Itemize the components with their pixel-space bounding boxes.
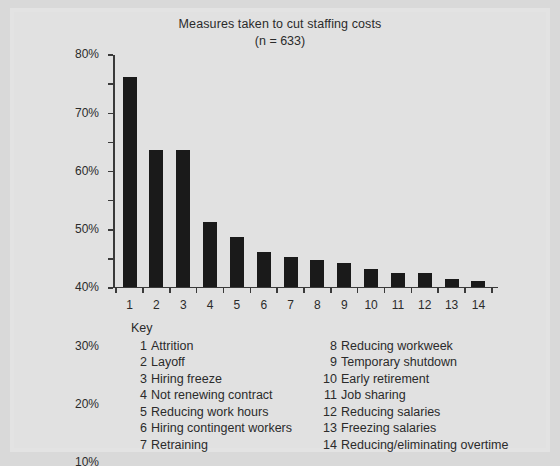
bar (203, 222, 217, 286)
key-item: 5Reducing work hours (131, 404, 326, 421)
chart-title: Measures taken to cut staffing costs (0, 16, 560, 33)
x-axis-tick (330, 288, 332, 293)
key-item-number: 4 (131, 387, 147, 404)
y-axis-tick-label: 30% (75, 339, 99, 353)
y-axis-tick-label: 20% (75, 397, 99, 411)
key-item-number: 6 (131, 420, 147, 437)
key-item-label: Hiring contingent workers (151, 421, 292, 435)
x-axis-tick (169, 288, 171, 293)
x-axis-tick (276, 288, 278, 293)
bar (149, 150, 163, 287)
key-item-number: 8 (321, 338, 337, 355)
key-item: 14Reducing/eliminating overtime (321, 437, 536, 454)
bar (284, 257, 298, 286)
x-axis-line (113, 287, 498, 289)
key-item-label: Temporary shutdown (341, 355, 457, 369)
x-axis-tick-label: 7 (287, 298, 294, 312)
key-item-number: 5 (131, 404, 147, 421)
key-item: 4Not renewing contract (131, 387, 326, 404)
x-axis-tick-label: 8 (314, 298, 321, 312)
bar (337, 263, 351, 286)
key-item: 9Temporary shutdown (321, 354, 536, 371)
key-item-label: Job sharing (341, 388, 406, 402)
key-item-label: Reducing workweek (341, 339, 453, 353)
key-item-label: Reducing salaries (341, 405, 440, 419)
y-axis-tick: 50% (108, 142, 113, 144)
x-axis-tick (491, 288, 493, 293)
y-axis-tick-label: 40% (75, 280, 99, 294)
bar (257, 252, 271, 287)
y-axis-tick-label: 50% (75, 222, 99, 236)
x-axis-tick (142, 288, 144, 293)
key-item-number: 14 (321, 437, 337, 454)
key-item-number: 9 (321, 354, 337, 371)
x-axis-tick-label: 10 (364, 298, 377, 312)
x-axis-tick-label: 3 (180, 298, 187, 312)
key-item-label: Layoff (151, 355, 185, 369)
bar (310, 260, 324, 286)
x-axis-tick (384, 288, 386, 293)
key-item-label: Freezing salaries (341, 421, 436, 435)
key-item: 10Early retirement (321, 371, 536, 388)
x-axis-tick-label: 11 (392, 298, 404, 312)
bar (123, 77, 137, 287)
x-axis-tick-label: 14 (472, 298, 485, 312)
key-item-number: 10 (321, 371, 337, 388)
bar (230, 237, 244, 287)
y-axis-tick: 20% (108, 229, 113, 231)
x-axis-tick-label: 9 (341, 298, 348, 312)
bar (418, 273, 432, 286)
y-axis-tick: 0% (108, 287, 113, 289)
x-axis-tick (464, 288, 466, 293)
key-item-label: Hiring freeze (151, 372, 222, 386)
x-axis-tick-label: 6 (260, 298, 267, 312)
x-axis-tick (411, 288, 413, 293)
x-axis-tick-label: 4 (207, 298, 214, 312)
x-axis-tick-label: 5 (234, 298, 241, 312)
plot-area: 0%10%20%30%40%50%60%70%80% 1234567891011… (113, 55, 498, 288)
x-axis-tick (250, 288, 252, 293)
y-axis-tick-label: 10% (75, 455, 99, 466)
key-item: 6Hiring contingent workers (131, 420, 326, 437)
key-item: 2Layoff (131, 354, 326, 371)
y-axis-tick: 60% (108, 113, 113, 115)
y-axis-line (113, 55, 115, 288)
key-item-number: 3 (131, 371, 147, 388)
x-axis-tick (437, 288, 439, 293)
x-axis-tick-label: 2 (153, 298, 160, 312)
y-axis-tick-label: 80% (75, 47, 99, 61)
key-item-label: Not renewing contract (151, 388, 273, 402)
key-item: 12Reducing salaries (321, 404, 536, 421)
x-axis-tick-label: 13 (445, 298, 458, 312)
x-axis-tick (223, 288, 225, 293)
chart-page: Measures taken to cut staffing costs (n … (0, 0, 560, 466)
key-item-number: 12 (321, 404, 337, 421)
key-column-right: 8Reducing workweek9Temporary shutdown10E… (321, 338, 536, 454)
bar (445, 279, 459, 286)
key-item: 3Hiring freeze (131, 371, 326, 388)
bar (176, 150, 190, 287)
key-item-number: 13 (321, 420, 337, 437)
key-item-label: Early retirement (341, 372, 429, 386)
x-axis-tick-label: 12 (418, 298, 431, 312)
key-column-left: 1Attrition2Layoff3Hiring freeze4Not rene… (131, 338, 326, 454)
y-axis-tick: 30% (108, 200, 113, 202)
chart-key: Key 1Attrition2Layoff3Hiring freeze4Not … (131, 320, 531, 338)
bar (471, 281, 485, 287)
key-item: 13Freezing salaries (321, 420, 536, 437)
title-block: Measures taken to cut staffing costs (n … (0, 16, 560, 50)
key-item-number: 1 (131, 338, 147, 355)
y-axis-tick: 70% (108, 83, 113, 85)
x-axis-tick (303, 288, 305, 293)
key-heading: Key (131, 320, 531, 337)
key-item-label: Retraining (151, 438, 208, 452)
x-axis-tick-label: 1 (126, 298, 133, 312)
y-axis-tick-label: 60% (75, 164, 99, 178)
x-axis-tick (196, 288, 198, 293)
y-axis-tick-label: 70% (75, 106, 99, 120)
x-axis-tick (357, 288, 359, 293)
key-item: 7Retraining (131, 437, 326, 454)
key-item-number: 11 (321, 387, 337, 404)
key-item: 8Reducing workweek (321, 338, 536, 355)
key-item-label: Attrition (151, 339, 193, 353)
